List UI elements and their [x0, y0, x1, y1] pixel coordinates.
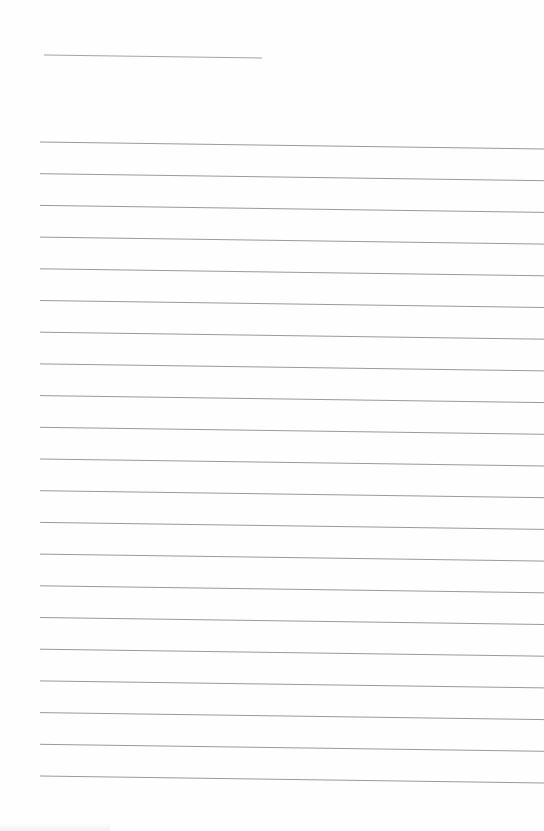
page-edge-shadow [0, 823, 110, 831]
ruled-line [40, 744, 544, 751]
lined-paper-page [0, 0, 544, 831]
ruled-line [40, 776, 544, 783]
ruled-line [40, 364, 544, 371]
ruled-line [40, 427, 544, 434]
ruled-line [40, 142, 544, 149]
ruled-line [40, 205, 544, 212]
header-rule-line [44, 55, 262, 58]
ruled-line [40, 618, 544, 625]
ruled-line [40, 491, 544, 498]
ruled-lines [0, 0, 544, 831]
ruled-line-group [40, 142, 544, 783]
ruled-line [40, 301, 544, 308]
ruled-line [40, 332, 544, 339]
ruled-line [40, 681, 544, 688]
ruled-line [40, 649, 544, 656]
ruled-line [40, 459, 544, 466]
ruled-line [40, 586, 544, 593]
ruled-line [40, 269, 544, 276]
header-line [44, 55, 262, 58]
ruled-line [40, 554, 544, 561]
ruled-line [40, 522, 544, 529]
ruled-line [40, 237, 544, 244]
ruled-line [40, 174, 544, 181]
ruled-line [40, 396, 544, 403]
ruled-line [40, 713, 544, 720]
